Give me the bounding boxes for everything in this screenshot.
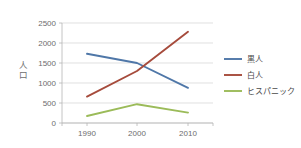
y-tick-label-1500: 1500 <box>38 59 56 68</box>
x-tick-label-2000: 2000 <box>128 129 146 138</box>
y-axis-title: 人 口 <box>19 60 28 80</box>
y-tick-label-2000: 2000 <box>38 39 56 48</box>
y-axis-title-char-1: 人 <box>19 60 28 70</box>
x-tick-label-2010: 2010 <box>179 129 197 138</box>
x-tick-label-1990: 1990 <box>78 129 96 138</box>
line-chart-figure: 2500 2000 1500 1000 500 0 人 口 1990 2000 … <box>0 0 301 148</box>
legend-label-hispanic-population: ヒスパニック <box>247 87 295 96</box>
chart-canvas: 2500 2000 1500 1000 500 0 人 口 1990 2000 … <box>0 0 301 148</box>
y-tick-label-1000: 1000 <box>38 79 56 88</box>
y-tick-label-2500: 2500 <box>38 19 56 28</box>
y-tick-label-500: 500 <box>43 99 57 108</box>
y-axis-title-char-2: 口 <box>19 70 28 80</box>
legend-label-white-population: 白人 <box>247 70 263 80</box>
legend-label-black-population: 黒人 <box>247 55 263 64</box>
y-tick-label-0: 0 <box>52 119 57 128</box>
